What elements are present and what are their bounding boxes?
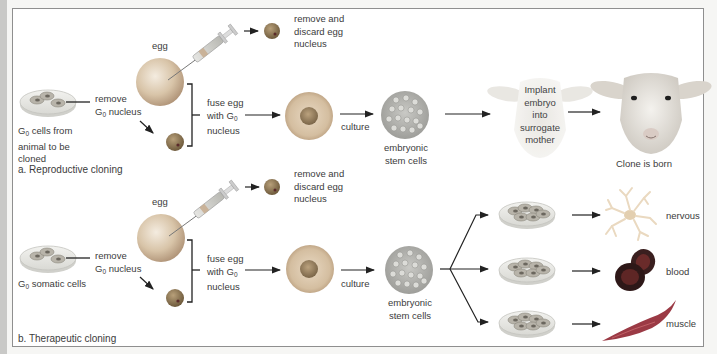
outcome-blood-label: blood — [666, 266, 689, 279]
egg-label-b: egg — [152, 196, 168, 209]
culture-label-b: culture — [341, 278, 370, 291]
cloned-sheep-icon — [589, 73, 713, 154]
remove-nucleus-label-a: removeG0 nucleus — [95, 93, 141, 121]
culture-label-a: culture — [341, 121, 370, 134]
panel-a-title: a. Reproductive cloning — [18, 164, 123, 175]
discard-nucleus-label-a: remove anddiscard eggnucleus — [294, 13, 344, 51]
stem-cells-label-a: embryonicstem cells — [376, 142, 436, 167]
implant-embryo-label: Implantembryointosurrogatemother — [510, 84, 570, 147]
outcome-muscle-label: muscle — [666, 318, 696, 331]
clone-born-label: Clone is born — [616, 158, 672, 171]
remove-nucleus-label-b: removeG0 nucleus — [95, 250, 141, 278]
petri-dish-icon — [499, 258, 555, 285]
diagram-artwork — [0, 0, 717, 354]
egg-label-a: egg — [152, 40, 168, 53]
petri-dish-icon — [20, 246, 76, 273]
embryonic-stem-cells-icon — [381, 91, 429, 139]
discarded-nucleus-icon — [264, 179, 280, 195]
blood-cells-icon — [615, 246, 659, 291]
g0-nucleus-icon — [166, 133, 184, 151]
panel-a-reproductive-cloning — [20, 23, 713, 158]
petri-dish-icon — [499, 311, 555, 338]
fuse-label-a: fuse eggwith G0nucleus — [207, 97, 243, 138]
egg-cell-icon — [136, 58, 184, 106]
nerve-cell-icon — [606, 188, 656, 240]
source-cells-label-b: G0 somatic cells — [18, 278, 86, 294]
discard-nucleus-label-b: remove anddiscard eggnucleus — [294, 168, 344, 206]
discarded-nucleus-icon — [264, 23, 280, 39]
panel-b-title: b. Therapeutic cloning — [18, 333, 116, 344]
stem-cells-label-b: embryonicstem cells — [380, 297, 440, 322]
muscle-cell-icon — [602, 300, 676, 341]
embryonic-stem-cells-icon — [385, 246, 433, 294]
g0-nucleus-icon — [166, 289, 184, 307]
source-cells-label-a: G0 cells fromanimal to becloned — [18, 125, 72, 166]
petri-dish-icon — [20, 90, 76, 117]
egg-cell-icon — [137, 214, 185, 262]
outcome-nervous-label: nervous — [666, 210, 700, 223]
petri-dish-icon — [499, 202, 555, 229]
fuse-label-b: fuse eggwith G0nucleus — [207, 253, 243, 294]
